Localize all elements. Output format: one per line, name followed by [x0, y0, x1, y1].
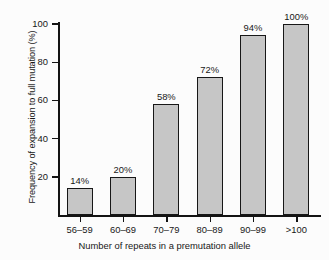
bar-value-label: 72%	[184, 64, 236, 75]
x-tick-mark	[80, 216, 81, 222]
x-tick-mark	[166, 216, 167, 222]
bar	[110, 177, 136, 215]
x-tick-mark	[123, 216, 124, 222]
y-tick-label: 20	[38, 171, 48, 182]
y-tick-label: 40	[38, 133, 48, 144]
bar-value-label: 14%	[54, 175, 106, 186]
y-tick-label: 60	[38, 94, 48, 105]
bar-value-label: 94%	[227, 22, 279, 33]
y-tick-label: 80	[38, 56, 48, 67]
bar-chart-figure: Frequency of expansion to full mutation …	[0, 0, 329, 260]
x-tick-mark	[253, 216, 254, 222]
bar	[197, 77, 223, 215]
bar	[283, 24, 309, 215]
x-axis-line	[58, 215, 321, 217]
x-axis-title: Number of repeats in a premutation allel…	[0, 240, 329, 251]
bar	[67, 188, 93, 215]
bar-value-label: 58%	[140, 91, 192, 102]
bar-value-label: 100%	[270, 11, 322, 22]
y-axis-title: Frequency of expansion to full mutation …	[27, 19, 37, 215]
bar-value-label: 20%	[97, 164, 149, 175]
plot-area	[58, 24, 315, 215]
y-tick-label: 100	[32, 18, 48, 29]
x-tick-mark	[296, 216, 297, 222]
bar	[153, 104, 179, 215]
x-tick-mark	[210, 216, 211, 222]
x-tick-label: >100	[270, 224, 322, 235]
bar	[240, 35, 266, 215]
